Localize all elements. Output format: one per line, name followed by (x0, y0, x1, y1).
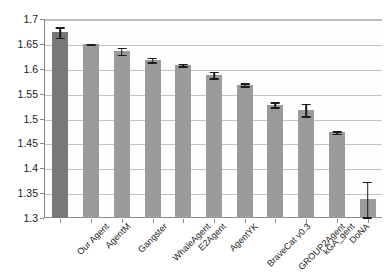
plot-area (44, 19, 382, 218)
x-axis-labels: Our AgentAgentMGangsterWhaleAgentE2Agent… (44, 222, 382, 280)
y-axis-tick-label: 1.5 (0, 113, 38, 125)
bar (52, 32, 68, 218)
error-bar (152, 58, 154, 64)
error-bar (121, 48, 123, 56)
error-bar (367, 182, 369, 219)
y-axis-tick-label: 1.35 (0, 187, 38, 199)
y-axis-tick-label: 1.6 (0, 63, 38, 75)
bar (298, 110, 314, 218)
error-bar (213, 72, 215, 80)
x-axis-tick-label: AgentYK (228, 222, 259, 253)
bar (206, 75, 222, 218)
error-bar (305, 104, 307, 118)
y-axis-tick-mark (40, 218, 44, 219)
error-bar (244, 83, 246, 87)
error-bar (90, 44, 92, 46)
bars-layer (45, 20, 382, 218)
bar-chart: 1.71.651.61.551.51.451.41.351.3 Our Agen… (0, 0, 389, 280)
bar (114, 51, 130, 218)
bar (329, 132, 345, 218)
bar-group (137, 20, 168, 218)
bar (175, 65, 191, 218)
y-axis-tick-label: 1.45 (0, 137, 38, 149)
y-axis-tick-label: 1.55 (0, 88, 38, 100)
bar-group (260, 20, 291, 218)
bar-group (199, 20, 230, 218)
bar (237, 85, 253, 218)
bar-group (322, 20, 353, 218)
bar-group (106, 20, 137, 218)
error-bar (182, 64, 184, 68)
bar-group (76, 20, 107, 218)
bar (145, 60, 161, 218)
y-axis-tick-label: 1.65 (0, 38, 38, 50)
error-bar (275, 102, 277, 109)
y-axis-tick-label: 1.7 (0, 13, 38, 25)
y-axis-tick-label: 1.4 (0, 162, 38, 174)
error-bar (60, 27, 62, 39)
bar-group (168, 20, 199, 218)
error-bar (336, 131, 338, 135)
bar-group (352, 20, 383, 218)
bar (267, 105, 283, 218)
bar-group (45, 20, 76, 218)
bar-group (229, 20, 260, 218)
bar-group (291, 20, 322, 218)
bar (83, 44, 99, 218)
x-axis-tick-label: Gangster (137, 222, 170, 255)
y-axis-tick-label: 1.3 (0, 212, 38, 224)
y-axis: 1.71.651.61.551.51.451.41.351.3 (0, 19, 44, 218)
